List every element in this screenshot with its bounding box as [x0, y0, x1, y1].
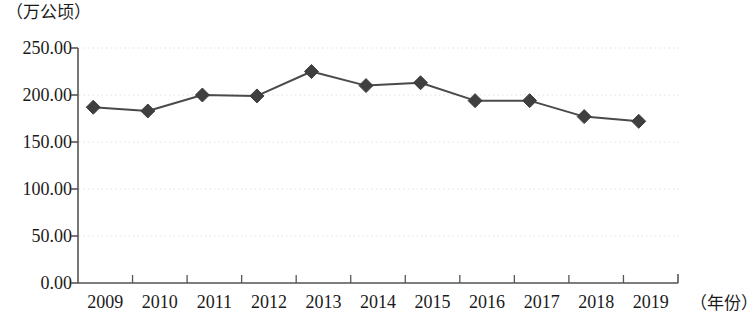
x-axis-ticks: [133, 275, 624, 283]
x-axis-title: （年份）: [690, 293, 754, 315]
axis-lines: [78, 48, 678, 283]
plot-area: [0, 0, 754, 325]
data-point-marker: [250, 89, 264, 103]
line-chart: （万公顷） 0.0050.00100.00150.00200.00250.00 …: [0, 0, 754, 325]
data-point-marker: [304, 65, 318, 79]
data-point-marker: [632, 114, 646, 128]
data-point-marker: [195, 88, 209, 102]
data-point-marker: [523, 94, 537, 108]
data-point-marker: [414, 76, 428, 90]
data-point-marker: [359, 79, 373, 93]
data-point-marker: [577, 110, 591, 124]
data-point-marker: [86, 100, 100, 114]
data-point-marker: [468, 94, 482, 108]
x-axis-tick-label: 2019: [616, 292, 686, 312]
y-axis-ticks: [71, 48, 78, 283]
data-point-marker: [141, 104, 155, 118]
data-markers: [86, 65, 645, 129]
gridlines: [79, 48, 680, 283]
